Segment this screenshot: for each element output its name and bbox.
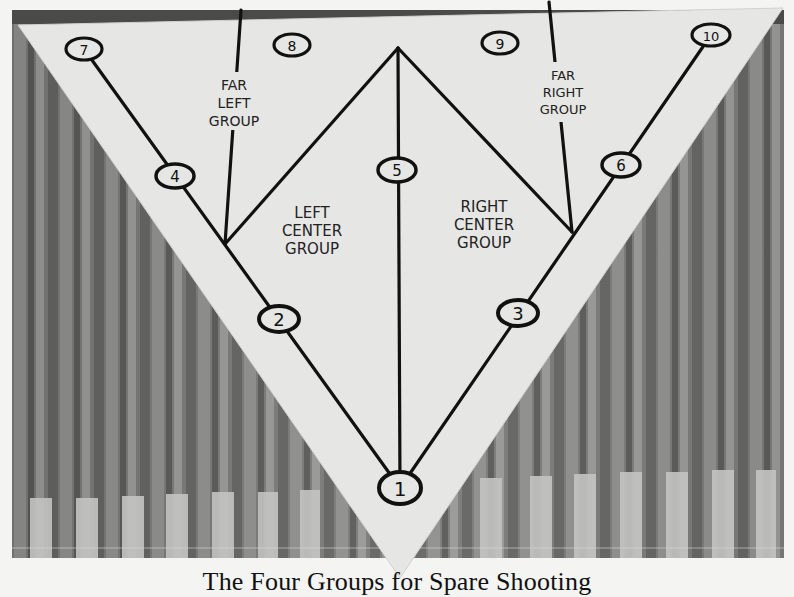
pin-7: 7 <box>66 38 102 60</box>
svg-text:RIGHT: RIGHT <box>543 85 584 100</box>
figure-caption: The Four Groups for Spare Shooting <box>0 567 794 597</box>
right-center-group-label: RIGHT CENTER GROUP <box>454 198 514 252</box>
svg-text:10: 10 <box>703 29 720 44</box>
pin-8: 8 <box>274 34 310 56</box>
pin-1: 1 <box>379 472 421 504</box>
svg-text:LEFT: LEFT <box>294 204 330 222</box>
svg-text:6: 6 <box>616 157 626 175</box>
svg-text:LEFT: LEFT <box>217 95 250 111</box>
svg-text:GROUP: GROUP <box>540 102 587 117</box>
svg-text:GROUP: GROUP <box>209 113 259 129</box>
pin-9: 9 <box>482 32 518 54</box>
svg-text:8: 8 <box>288 38 297 54</box>
svg-text:CENTER: CENTER <box>454 216 514 234</box>
svg-text:GROUP: GROUP <box>285 240 339 258</box>
svg-text:1: 1 <box>394 477 407 501</box>
svg-text:2: 2 <box>273 309 284 330</box>
svg-text:7: 7 <box>80 42 89 58</box>
svg-text:3: 3 <box>512 303 523 324</box>
pin-5: 5 <box>378 158 416 182</box>
svg-text:FAR: FAR <box>221 77 247 93</box>
svg-text:4: 4 <box>170 168 180 186</box>
pin-6: 6 <box>602 153 640 177</box>
pin-4: 4 <box>156 164 194 188</box>
svg-text:9: 9 <box>496 36 505 52</box>
pin-2: 2 <box>259 306 299 332</box>
svg-text:CENTER: CENTER <box>282 222 342 240</box>
pin-10: 10 <box>692 24 730 46</box>
svg-text:RIGHT: RIGHT <box>461 198 509 216</box>
center-vertical-line <box>398 48 400 488</box>
pin-3: 3 <box>498 300 538 326</box>
svg-text:FAR: FAR <box>551 68 575 83</box>
svg-text:GROUP: GROUP <box>457 234 511 252</box>
svg-text:5: 5 <box>392 162 402 180</box>
